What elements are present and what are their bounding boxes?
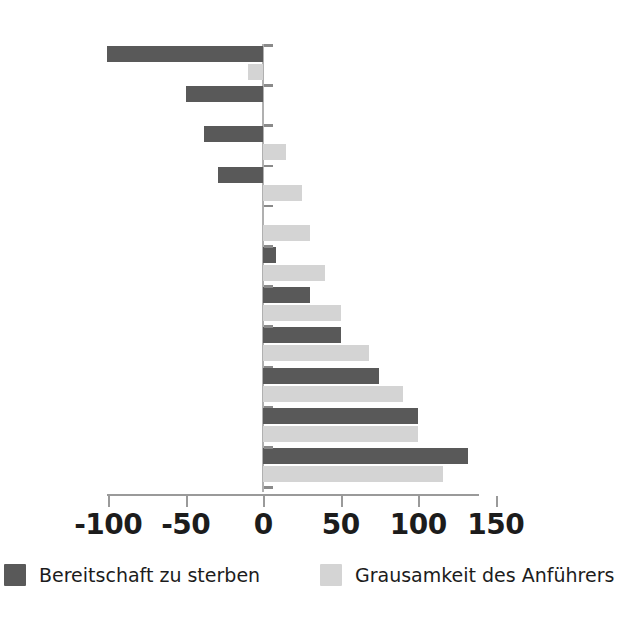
category-tick (264, 446, 273, 449)
bar-bereitschaft (263, 368, 379, 384)
legend-item-grausamkeit[interactable]: Grausamkeit des Anführers (320, 564, 614, 586)
x-axis-tick (496, 496, 498, 507)
x-axis-tick (341, 496, 343, 507)
legend-item-label: Grausamkeit des Anführers (355, 564, 614, 586)
x-axis-tick-labels: -100-50050100150 (0, 508, 635, 548)
dark-gray-swatch-icon (4, 564, 26, 586)
category-tick (264, 124, 273, 127)
bar-row (0, 166, 635, 206)
bar-bereitschaft (263, 287, 310, 303)
bar-row (0, 447, 635, 487)
category-tick (264, 486, 273, 489)
category-tick (264, 245, 273, 248)
bar-bereitschaft (263, 327, 341, 343)
bar-bereitschaft (263, 448, 468, 464)
bar-bereitschaft (218, 167, 263, 183)
category-tick (264, 44, 273, 47)
x-axis (107, 494, 479, 505)
bar-grausamkeit (263, 265, 325, 281)
bar-grausamkeit (263, 185, 302, 201)
category-tick (264, 406, 273, 409)
x-axis-tick-label: 0 (254, 508, 273, 541)
bar-row (0, 407, 635, 447)
bar-row (0, 125, 635, 165)
diverging-bar-chart: -100-50050100150 Bereitschaft zu sterben… (0, 0, 635, 630)
bar-row (0, 326, 635, 366)
bar-bereitschaft (186, 86, 264, 102)
plot-area (0, 0, 635, 500)
bar-grausamkeit (263, 144, 286, 160)
bar-grausamkeit (263, 426, 418, 442)
x-axis-tick (418, 496, 420, 507)
legend-item-label: Bereitschaft zu sterben (39, 564, 260, 586)
bar-bereitschaft (204, 126, 263, 142)
light-gray-swatch-icon (320, 564, 342, 586)
bar-grausamkeit (263, 466, 443, 482)
bar-row (0, 286, 635, 326)
bar-grausamkeit (263, 345, 368, 361)
bar-rows (0, 45, 635, 487)
x-axis-tick-label: 100 (390, 508, 447, 541)
bar-grausamkeit (248, 64, 264, 80)
bar-row (0, 367, 635, 407)
category-tick (264, 366, 273, 369)
x-axis-tick (186, 496, 188, 507)
bar-row (0, 206, 635, 246)
x-axis-tick (108, 496, 110, 507)
x-axis-tick (263, 496, 265, 507)
x-axis-tick-label: -100 (74, 508, 142, 541)
bar-row (0, 45, 635, 85)
legend-item-bereitschaft[interactable]: Bereitschaft zu sterben (4, 564, 260, 586)
bar-row (0, 85, 635, 125)
category-tick (264, 285, 273, 288)
category-tick (264, 205, 273, 208)
x-axis-tick-label: -50 (161, 508, 210, 541)
bar-grausamkeit (263, 225, 310, 241)
x-axis-tick-label: 50 (322, 508, 360, 541)
bar-grausamkeit (263, 305, 341, 321)
bar-bereitschaft (263, 408, 418, 424)
x-axis-tick-label: 150 (467, 508, 524, 541)
bar-bereitschaft (107, 46, 264, 62)
bar-grausamkeit (263, 386, 403, 402)
bar-bereitschaft (263, 247, 275, 263)
chart-legend: Bereitschaft zu sterben Grausamkeit des … (0, 560, 635, 606)
category-tick (264, 325, 273, 328)
bar-row (0, 246, 635, 286)
category-tick (264, 165, 273, 168)
category-tick (264, 84, 273, 87)
